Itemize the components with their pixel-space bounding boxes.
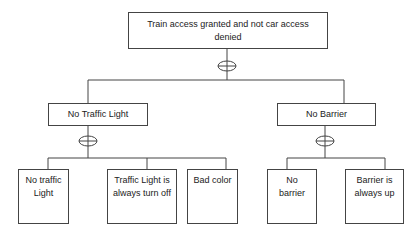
basic-event-label: Traffic Light is always turn off bbox=[113, 175, 171, 198]
basic-event-barrier-always-up: Barrier is always up bbox=[345, 169, 404, 224]
basic-event-label: No barrier bbox=[279, 175, 305, 198]
basic-event-label: Bad color bbox=[193, 175, 231, 185]
event-no-traffic-light: No Traffic Light bbox=[48, 103, 148, 126]
basic-event-no-traffic-light: No traffic Light bbox=[18, 169, 69, 224]
root-event-label: Train access granted and not car access … bbox=[137, 18, 319, 44]
basic-event-bad-color: Bad color bbox=[187, 169, 238, 224]
basic-event-label: No traffic Light bbox=[26, 175, 62, 198]
event-label: No Barrier bbox=[306, 108, 347, 121]
or-gate-icon bbox=[316, 136, 334, 146]
event-no-barrier: No Barrier bbox=[277, 103, 376, 126]
basic-event-label: Barrier is always up bbox=[354, 175, 394, 198]
basic-event-traffic-light-off: Traffic Light is always turn off bbox=[107, 169, 177, 224]
or-gate-icon bbox=[79, 136, 97, 146]
or-gate-icon bbox=[218, 61, 236, 71]
event-label: No Traffic Light bbox=[68, 108, 128, 121]
root-event-box: Train access granted and not car access … bbox=[128, 12, 328, 49]
basic-event-no-barrier: No barrier bbox=[267, 169, 317, 224]
